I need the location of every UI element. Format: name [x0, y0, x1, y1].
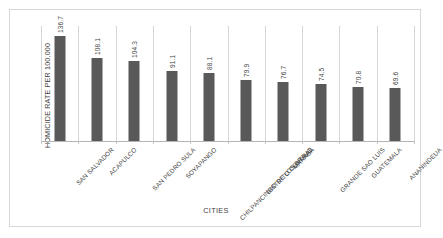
category-label-slot: SOYAPANGO	[153, 144, 190, 204]
category-label-slot: CHILPANCINGO DE LOS BRAVO	[190, 144, 227, 204]
bar[interactable]	[353, 87, 364, 141]
bar[interactable]	[390, 88, 401, 141]
bar-slot: 69.6	[377, 26, 414, 141]
bar-value-label: 136.7	[56, 16, 63, 33]
category-label-slot: DISTRITO CENTRAL	[228, 144, 265, 204]
bar-value-label: 74.5	[317, 68, 324, 81]
bar[interactable]	[241, 80, 252, 141]
category-separator-line	[414, 26, 415, 141]
bar[interactable]	[54, 36, 65, 141]
category-label-slot: SAN SALVADOR	[41, 144, 78, 204]
bar[interactable]	[203, 73, 214, 141]
bar-value-label: 108.1	[94, 38, 101, 55]
bar-value-label: 76.7	[280, 66, 287, 79]
bar[interactable]	[278, 82, 289, 141]
plot-region: 136.7108.1104.391.188.179.976.774.570.86…	[41, 26, 414, 141]
bar-value-label: 70.8	[355, 71, 362, 84]
category-label-slot: GUATEMALA	[339, 144, 376, 204]
bar-value-label: 104.3	[131, 41, 138, 58]
bar-slot: 79.9	[228, 26, 265, 141]
bar-chart: HOMICIDE RATE PER 100,000 136.7108.1104.…	[10, 10, 422, 226]
chart-figure-frame: HOMICIDE RATE PER 100,000 136.7108.1104.…	[9, 9, 421, 227]
bar-slot: 136.7	[41, 26, 78, 141]
bar-value-label: 91.1	[168, 55, 175, 68]
category-label-slot: ACAPULCO	[78, 144, 115, 204]
category-axis-tick-label: ANANINDEUA	[408, 146, 443, 181]
x-axis-title: CITIES	[10, 206, 422, 215]
bar-slot: 108.1	[78, 26, 115, 141]
category-label-slot: SAN PEDRO SULA	[116, 144, 153, 204]
bar-value-label: 79.9	[243, 64, 250, 77]
bar-slot: 91.1	[153, 26, 190, 141]
category-axis-labels: SAN SALVADORACAPULCOSAN PEDRO SULASOYAPA…	[41, 144, 414, 204]
category-label-slot: ANANINDEUA	[377, 144, 414, 204]
bar-slot: 74.5	[302, 26, 339, 141]
bar-slot: 104.3	[116, 26, 153, 141]
bar[interactable]	[166, 71, 177, 141]
bar-value-label: 69.6	[392, 71, 399, 84]
bar[interactable]	[91, 58, 102, 141]
axis-tick	[414, 141, 415, 144]
bar[interactable]	[129, 61, 140, 141]
category-label-slot: MARABÁ	[265, 144, 302, 204]
bar-slot: 88.1	[190, 26, 227, 141]
bar-slot: 70.8	[339, 26, 376, 141]
category-label-slot: GRANDE SAO LUÍS	[302, 144, 339, 204]
bar[interactable]	[315, 84, 326, 141]
bar-slot: 76.7	[265, 26, 302, 141]
bar-value-label: 88.1	[205, 57, 212, 70]
